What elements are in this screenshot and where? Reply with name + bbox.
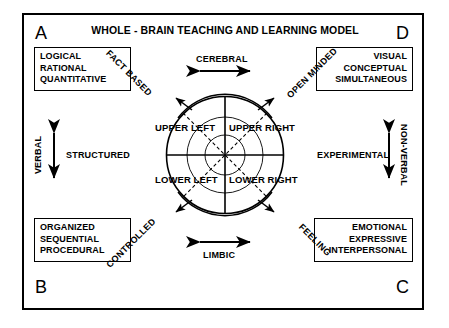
quadrant-box-b-line-2: SEQUENTIAL xyxy=(40,234,125,246)
axis-label-cerebral: CEREBRAL xyxy=(196,54,248,64)
quadrant-box-a-line-3: QUANTITATIVE xyxy=(40,74,125,86)
quadrant-box-d-line-2: CONCEPTUAL xyxy=(322,63,407,75)
quadrant-box-b-line-1: ORGANIZED xyxy=(40,222,125,234)
page-title: WHOLE - BRAIN TEACHING AND LEARNING MODE… xyxy=(60,24,390,36)
axis-label-verbal: VERBAL xyxy=(33,136,43,174)
quadrant-box-d-line-3: SIMULTANEOUS xyxy=(322,74,407,86)
corner-label-a: A xyxy=(35,24,47,42)
corner-label-d: D xyxy=(396,24,409,42)
axis-label-limbic: LIMBIC xyxy=(203,250,235,260)
quadrant-box-c: EMOTIONAL EXPRESSIVE INTERPERSONAL xyxy=(314,218,413,262)
circle-quadrant-upper-left: UPPER LEFT xyxy=(155,122,215,133)
corner-label-b: B xyxy=(35,278,47,296)
quadrant-box-c-line-2: EXPRESSIVE xyxy=(320,234,407,246)
diagram-canvas: WHOLE - BRAIN TEACHING AND LEARNING MODE… xyxy=(0,0,449,328)
axis-label-structured: STRUCTURED xyxy=(66,150,130,160)
circle-quadrant-lower-left: LOWER LEFT xyxy=(155,174,218,185)
circle-quadrant-upper-right: UPPER RIGHT xyxy=(229,122,295,133)
axis-label-non-verbal: NON-VERBAL xyxy=(399,124,409,186)
corner-label-c: C xyxy=(396,278,409,296)
axis-label-experimental: EXPERIMENTAL xyxy=(317,150,389,160)
circle-quadrant-lower-right: LOWER RIGHT xyxy=(229,174,298,185)
quadrant-box-c-line-1: EMOTIONAL xyxy=(320,222,407,234)
